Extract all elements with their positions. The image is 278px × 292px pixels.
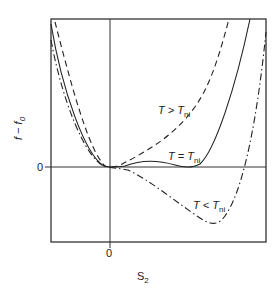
annotation-t-less-main: T < T <box>193 199 220 211</box>
annotation-t-equal: T = Tni <box>168 150 200 165</box>
annotation-t-greater-main: T > T <box>158 104 185 116</box>
y-tick-label-zero: 0 <box>37 161 43 173</box>
annotation-t-less-sub: ni <box>219 205 225 214</box>
chart: 0 0 S2 f − f0 T > Tni T = Tni T < Tni <box>0 0 278 292</box>
annotation-t-greater-sub: ni <box>184 110 190 119</box>
y-axis-label-sub: 0 <box>18 116 27 121</box>
series-t-equal-curve <box>51 19 250 167</box>
annotation-t-greater: T > Tni <box>158 104 190 119</box>
x-axis-label-sub: 2 <box>144 276 149 285</box>
series-t-greater-curve <box>55 19 229 167</box>
plot-frame <box>51 19 266 242</box>
annotation-t-less: T < Tni <box>193 199 225 214</box>
series-t-less-curve <box>51 32 266 223</box>
y-axis-label: f − f0 <box>12 116 27 140</box>
y-axis-label-main: f − f <box>12 120 24 140</box>
annotation-t-equal-main: T = T <box>168 150 195 162</box>
x-axis-label-main: S <box>137 270 144 282</box>
x-axis-label: S2 <box>137 270 149 285</box>
annotation-t-equal-sub: ni <box>194 156 200 165</box>
x-tick-label-zero: 0 <box>106 247 112 259</box>
